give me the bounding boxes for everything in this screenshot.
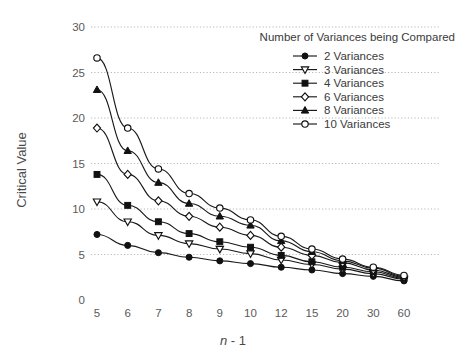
gridlines-group [91, 27, 440, 255]
x-tick-label: 8 [186, 307, 192, 319]
legend-label: 2 Variances [324, 50, 384, 62]
legend-label: 10 Variances [324, 118, 391, 130]
data-point-circle-open [155, 166, 161, 172]
data-point-circle-filled [302, 53, 308, 59]
data-point-diamond-open [278, 243, 285, 251]
data-point-circle-open [94, 55, 100, 61]
x-tick-label: 7 [155, 307, 161, 319]
data-point-triangle-up-filled [93, 86, 100, 93]
y-tick-label: 10 [72, 203, 85, 215]
svg-text:n - 1: n - 1 [220, 333, 246, 348]
data-point-diamond-open [124, 170, 131, 178]
y-tick-label: 0 [79, 294, 85, 306]
y-tick-label: 15 [72, 158, 85, 170]
x-tick-label: 60 [398, 307, 411, 319]
legend-item-8-variances[interactable]: 8 Variances [293, 104, 384, 116]
legend-title: Number of Variances being Compared [260, 31, 455, 43]
y-tick-label: 20 [72, 112, 85, 124]
y-axis-title: Critical Value [14, 132, 29, 208]
data-point-circle-filled [217, 258, 223, 264]
data-point-circle-filled [125, 242, 131, 248]
data-point-circle-open [125, 125, 131, 131]
data-point-circle-open [339, 256, 345, 262]
critical-value-line-chart: 051015202530 56789101215203060 Critical … [0, 0, 465, 357]
data-point-circle-filled [155, 250, 161, 256]
x-axis-title-suffix: - 1 [227, 333, 246, 348]
legend-label: 6 Variances [324, 91, 384, 103]
legend-label: 8 Variances [324, 104, 384, 116]
data-point-circle-open [247, 217, 253, 223]
x-axis-title-variable: n [220, 333, 227, 348]
data-point-square-filled [248, 244, 254, 250]
y-tick-label: 5 [79, 249, 85, 261]
data-point-square-filled [186, 231, 192, 237]
legend-item-6-variances[interactable]: 6 Variances [293, 91, 384, 103]
x-tick-label: 15 [306, 307, 319, 319]
data-point-diamond-open [216, 223, 223, 231]
data-point-diamond-open [155, 197, 162, 205]
data-point-square-filled [155, 219, 161, 225]
legend-label: 4 Variances [324, 77, 384, 89]
data-point-circle-open [370, 264, 376, 270]
x-tick-label: 10 [244, 307, 257, 319]
chart-container: 051015202530 56789101215203060 Critical … [0, 0, 465, 357]
x-tick-label: 9 [217, 307, 223, 319]
data-point-circle-filled [247, 261, 253, 267]
y-axis-tick-labels: 051015202530 [72, 21, 85, 306]
y-tick-label: 25 [72, 67, 85, 79]
y-tick-label: 30 [72, 21, 85, 33]
chart-legend: Number of Variances being Compared2 Vari… [260, 31, 455, 130]
data-point-square-filled [278, 252, 284, 258]
data-point-circle-filled [186, 254, 192, 260]
data-point-square-filled [302, 80, 308, 86]
x-axis-tick-labels: 56789101215203060 [94, 307, 411, 319]
legend-label: 3 Variances [324, 64, 384, 76]
x-tick-label: 20 [336, 307, 349, 319]
legend-item-10-variances[interactable]: 10 Variances [293, 118, 391, 130]
data-point-circle-filled [94, 231, 100, 237]
x-tick-label: 30 [367, 307, 380, 319]
data-point-circle-open [309, 246, 315, 252]
data-point-diamond-open [247, 231, 254, 239]
x-axis-title: n - 1 [220, 333, 246, 348]
legend-item-2-variances[interactable]: 2 Variances [293, 50, 384, 62]
data-point-diamond-open [301, 93, 308, 101]
data-point-square-filled [217, 239, 223, 245]
data-point-circle-open [278, 233, 284, 239]
legend-item-4-variances[interactable]: 4 Variances [293, 77, 384, 89]
data-point-circle-open [401, 272, 407, 278]
data-point-circle-open [186, 190, 192, 196]
data-point-square-filled [94, 171, 100, 177]
x-tick-label: 5 [94, 307, 100, 319]
data-point-circle-filled [278, 264, 284, 270]
data-point-square-filled [125, 202, 131, 208]
legend-item-3-variances[interactable]: 3 Variances [293, 64, 384, 76]
data-point-diamond-open [186, 212, 193, 220]
data-point-diamond-open [93, 124, 100, 132]
x-tick-label: 12 [275, 307, 288, 319]
data-point-circle-open [217, 205, 223, 211]
data-point-circle-open [302, 121, 308, 127]
x-tick-label: 6 [124, 307, 130, 319]
